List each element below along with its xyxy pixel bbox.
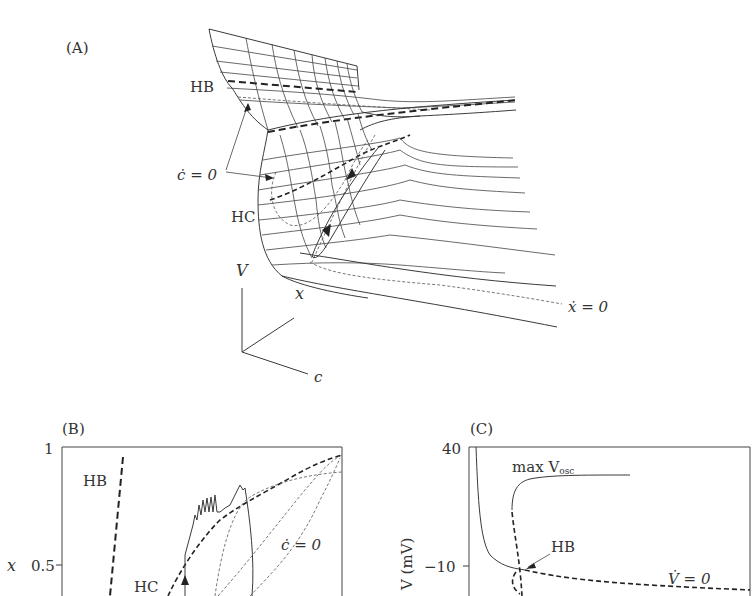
orbit-arrow-down-icon (322, 224, 331, 237)
hc-label-a: HC (231, 208, 256, 226)
panel-b-label: (B) (62, 420, 85, 438)
figure-canvas: (A) (0, 0, 753, 596)
trajectory-arrow-icon (181, 575, 189, 585)
c-nullcline-label-a: ċ = 0 (177, 166, 218, 184)
axis-x-label: x (295, 284, 304, 303)
ytick-minus-10: −10 (424, 558, 456, 576)
ytick-0-5: 0.5 (31, 557, 55, 575)
hb-label-c: HB (551, 538, 575, 556)
y-axis-label-c: V (mV) (398, 538, 416, 591)
hc-label-b: HC (134, 578, 159, 596)
v-nullcline-label: V̇ = 0 (668, 570, 711, 588)
panel-a-label: (A) (66, 39, 89, 57)
panel-b-frame (62, 447, 342, 596)
ytick-40: 40 (442, 440, 461, 458)
hb-label-b: HB (83, 472, 107, 490)
axis-v-label: V (236, 261, 249, 280)
max-v-osc-label: max Vosc (512, 458, 574, 476)
panel-c: (C) 40 −10 V (mV) HB max Vosc V̇ = 0 (398, 420, 750, 596)
panel-b: (B) 1 0.5 x HB HC ċ = 0 (7, 420, 342, 596)
axis-c-label: c (314, 368, 323, 386)
y-axis-label-b: x (7, 556, 16, 575)
panel-a: (A) (66, 29, 609, 386)
c-nullcline-label-b: ċ = 0 (281, 536, 322, 554)
hb-label-a: HB (190, 78, 214, 96)
x-nullcline-label-a: ẋ = 0 (568, 298, 609, 316)
panel-c-label: (C) (470, 420, 493, 438)
ytick-1: 1 (44, 440, 54, 458)
